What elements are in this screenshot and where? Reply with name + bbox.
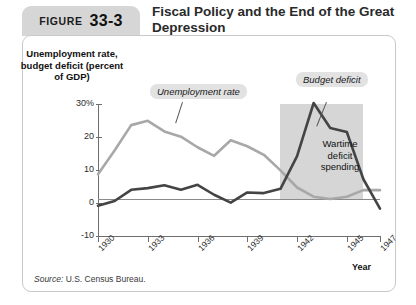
unemployment-rate-callout: Unemployment rate <box>150 84 247 99</box>
y-tick-label: 10 <box>54 164 94 174</box>
figure-title: Fiscal Policy and the End of the Great D… <box>152 4 402 36</box>
budget-deficit-callout: Budget deficit <box>296 72 368 87</box>
wartime-label-line-3: spending <box>305 161 375 173</box>
figure-number: 33-3 <box>90 12 123 30</box>
y-tick-label: -10 <box>54 230 94 240</box>
x-axis-title: Year <box>352 262 371 272</box>
y-tick-label: 0 <box>54 197 94 207</box>
y-tick-label: 20 <box>54 131 94 141</box>
y-axis-title: Unemployment rate, budget deficit (perce… <box>18 48 126 83</box>
figure-number-tab: FIGURE 33-3 <box>22 6 140 36</box>
figure-label: FIGURE <box>39 15 82 27</box>
figure-container: FIGURE 33-3 Fiscal Policy and the End of… <box>0 0 416 305</box>
source-prefix: Source: <box>34 274 63 284</box>
wartime-region-label: Wartime deficit spending <box>305 138 375 173</box>
source-note: Source: U.S. Census Bureau. <box>34 274 146 284</box>
wartime-label-line-2: deficit <box>305 150 375 162</box>
wartime-label-line-1: Wartime <box>305 138 375 150</box>
source-text: U.S. Census Bureau. <box>63 274 145 284</box>
y-tick-label: 30% <box>54 98 94 108</box>
